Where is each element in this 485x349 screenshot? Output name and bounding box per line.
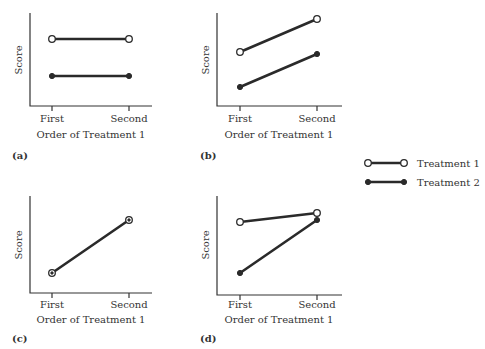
open-circle-marker (314, 16, 321, 23)
y-axis-label: Score (13, 45, 24, 74)
x-axis-label: Order of Treatment 1 (225, 129, 334, 140)
x-tick-label-first: First (40, 113, 64, 124)
open-circle-marker (237, 219, 244, 226)
x-tick-label-second: Second (110, 299, 148, 310)
interaction-figure: Score First Second Order of Treatment 1 … (0, 0, 485, 349)
x-tick-label-second: Second (298, 113, 336, 124)
legend-item-treatment-2: Treatment 2 (365, 177, 479, 188)
legend-label: Treatment 2 (417, 177, 480, 188)
axes (217, 13, 342, 106)
filled-circle-marker (51, 272, 53, 274)
legend: Treatment 1 Treatment 2 (365, 158, 480, 188)
filled-circle-marker (237, 270, 242, 275)
x-axis-label: Order of Treatment 1 (225, 314, 334, 325)
open-circle-marker (126, 36, 133, 43)
treatment-2-line (240, 220, 317, 273)
y-axis-label: Score (200, 230, 211, 259)
x-tick-label-first: First (228, 113, 252, 124)
panel-a: Score First Second Order of Treatment 1 … (12, 13, 152, 161)
x-axis-label: Order of Treatment 1 (37, 129, 146, 140)
x-tick-label-second: Second (110, 113, 148, 124)
x-tick-label-first: First (228, 299, 252, 310)
panel-label: (a) (12, 150, 28, 161)
panel-label: (d) (200, 333, 216, 344)
legend-label: Treatment 1 (417, 158, 480, 169)
x-tick-label-first: First (40, 299, 64, 310)
filled-circle-marker (128, 219, 130, 221)
filled-circle-marker (365, 179, 370, 184)
treatment-1-line (240, 213, 317, 222)
y-axis-label: Score (200, 45, 211, 74)
treatment-1-line (240, 19, 317, 52)
overlapping-treatment-lines (52, 220, 129, 273)
axes (30, 13, 152, 106)
filled-circle-marker (401, 179, 406, 184)
x-tick-label-second: Second (298, 299, 336, 310)
filled-circle-marker (49, 73, 54, 78)
open-circle-marker (49, 36, 56, 43)
panel-b: Score First Second Order of Treatment 1 … (200, 13, 342, 161)
treatment-2-line (240, 54, 317, 87)
panel-d: Score First Second Order of Treatment 1 … (200, 196, 342, 344)
open-circle-marker (237, 49, 244, 56)
axes (30, 196, 152, 293)
open-circle-marker (401, 160, 408, 167)
filled-circle-marker (314, 217, 319, 222)
panel-label: (b) (200, 150, 216, 161)
panel-c: Score First Second Order of Treatment 1 … (12, 196, 152, 344)
y-axis-label: Score (13, 230, 24, 259)
open-circle-marker (314, 210, 321, 217)
filled-circle-marker (237, 84, 242, 89)
filled-circle-marker (126, 73, 131, 78)
filled-circle-marker (314, 51, 319, 56)
panel-label: (c) (12, 333, 28, 344)
legend-item-treatment-1: Treatment 1 (365, 158, 480, 169)
open-circle-marker (365, 160, 372, 167)
x-axis-label: Order of Treatment 1 (37, 314, 146, 325)
